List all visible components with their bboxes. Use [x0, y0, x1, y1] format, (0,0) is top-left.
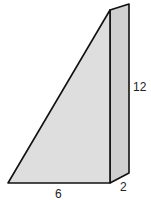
prism-diagram: 6 2 12	[0, 0, 151, 207]
depth-label: 2	[120, 180, 127, 194]
height-label: 12	[133, 80, 147, 94]
prism-side-face	[110, 4, 129, 183]
prism-triangle-face	[8, 10, 110, 183]
base-length-label: 6	[55, 187, 62, 201]
